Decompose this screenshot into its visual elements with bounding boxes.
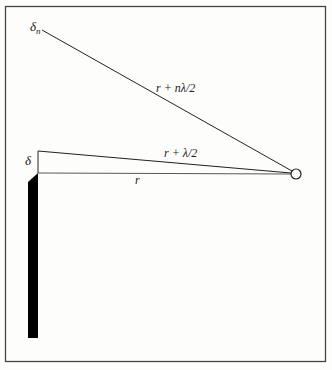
label-delta-n: δn [30,19,41,36]
figure-border [6,7,326,362]
label-path-r: r [135,173,140,187]
diffraction-diagram: δn r + nλ/2 δ r + λ/2 r [0,0,332,370]
label-delta: δ [25,153,32,168]
observer-point-icon [291,169,301,179]
label-path-half: r + λ/2 [164,146,197,160]
label-path-long: r + nλ/2 [156,81,195,95]
path-line-r [38,173,291,174]
opaque-screen [28,173,38,338]
